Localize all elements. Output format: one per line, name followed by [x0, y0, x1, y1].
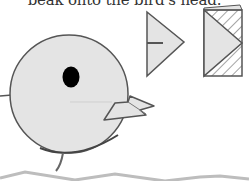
- ground-line: [0, 172, 249, 181]
- folded-paper-square: [204, 5, 242, 76]
- folded-beak-piece: [147, 12, 184, 76]
- bird-eye: [63, 67, 80, 88]
- bird-illustration: [0, 0, 249, 181]
- bird-body: [0, 35, 128, 171]
